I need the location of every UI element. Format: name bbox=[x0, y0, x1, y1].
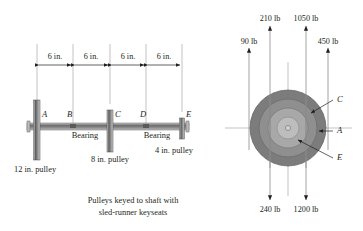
pulley-a bbox=[34, 100, 41, 160]
concentric-circles bbox=[250, 90, 326, 166]
force-label-90lb: 90 lb bbox=[229, 38, 269, 46]
pulley-c bbox=[107, 110, 113, 152]
bearing-label-right: Bearing bbox=[132, 132, 182, 140]
force-label-1200lb: 1200 lb bbox=[284, 206, 328, 214]
station-label-b: B bbox=[67, 110, 72, 119]
pulley-label-12in: 12 in. pulley bbox=[14, 166, 56, 174]
figure-caption-line2: sled-runner keyseats bbox=[58, 209, 208, 217]
dimension-label-bc: 6 in. bbox=[77, 53, 105, 61]
dimension-label-de: 6 in. bbox=[150, 53, 178, 61]
circle-label-e: E bbox=[337, 153, 342, 162]
figure-caption-line1: Pulleys keyed to shaft with bbox=[58, 197, 208, 205]
force-label-1050lb: 1050 lb bbox=[284, 15, 328, 23]
bearing-label-left: Bearing bbox=[60, 132, 110, 140]
station-label-c: C bbox=[115, 110, 121, 119]
pulley-label-4in: 4 in. pulley bbox=[155, 147, 193, 155]
dimension-label-cd: 6 in. bbox=[114, 53, 142, 61]
circle-label-a: A bbox=[337, 126, 342, 135]
shaft-center bbox=[285, 125, 290, 130]
station-label-e: E bbox=[186, 110, 191, 119]
station-label-a: A bbox=[42, 110, 47, 119]
dimension-label-ab: 6 in. bbox=[41, 53, 69, 61]
figure-root: 6 in. 6 in. 6 in. 6 in. A B C D E Bearin… bbox=[0, 0, 363, 231]
station-label-d: D bbox=[140, 110, 146, 119]
circle-label-c: C bbox=[337, 95, 343, 104]
force-label-450lb: 450 lb bbox=[308, 38, 348, 46]
pulley-label-8in: 8 in. pulley bbox=[91, 156, 129, 164]
